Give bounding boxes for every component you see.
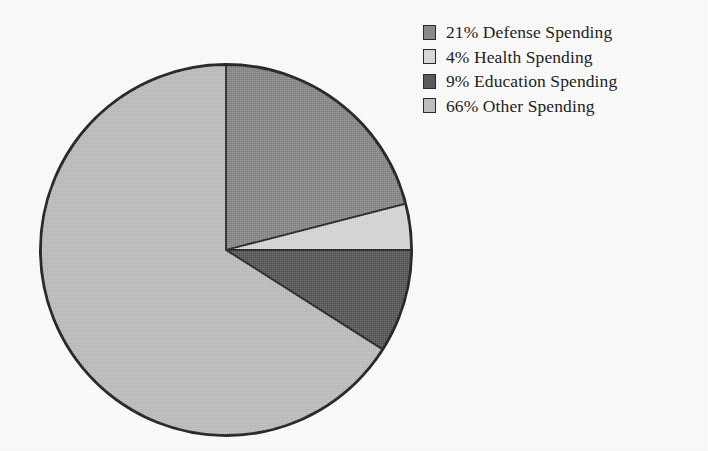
legend-swatch-health [423,49,436,64]
legend-item-health[interactable]: 4% Health Spending [423,45,698,69]
pie-chart-figure: 21% Defense Spending 4% Health Spending … [0,0,708,451]
legend-swatch-education [423,74,436,89]
legend-label-education: 9% Education Spending [446,71,617,91]
legend-label-defense: 21% Defense Spending [446,22,612,42]
legend-swatch-defense [423,25,436,40]
legend-label-health: 4% Health Spending [446,47,593,67]
pie-chart-graphic [30,54,422,446]
pie-svg [30,54,422,446]
legend-item-defense[interactable]: 21% Defense Spending [423,20,698,44]
legend-swatch-other [423,98,436,113]
legend-item-education[interactable]: 9% Education Spending [423,69,698,93]
legend-label-other: 66% Other Spending [446,96,595,116]
pie-texture [41,65,411,435]
chart-legend: 21% Defense Spending 4% Health Spending … [423,20,698,118]
legend-item-other[interactable]: 66% Other Spending [423,94,698,118]
